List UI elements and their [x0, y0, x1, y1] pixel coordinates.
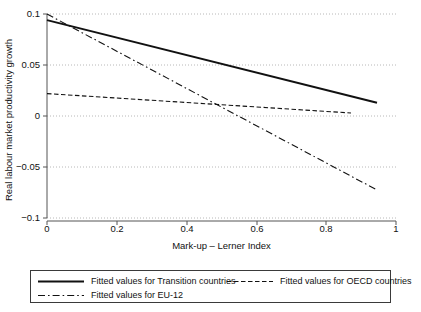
legend-item-oecd: Fitted values for OECD countries [227, 274, 412, 288]
x-tick-label-0.2: 0.2 [97, 224, 137, 234]
legend-sample-solid [38, 276, 84, 287]
y-axis [43, 14, 47, 218]
plot-area [0, 0, 421, 312]
x-tick-label-0.6: 0.6 [237, 224, 277, 234]
legend-sample-dashed [227, 276, 273, 287]
legend-label-transition: Fitted values for Transition countries [91, 276, 236, 287]
legend-label-eu12: Fitted values for EU-12 [91, 290, 183, 301]
series-line-eu12 [47, 14, 377, 190]
legend-sample-dash-dot [38, 290, 84, 301]
x-axis-title: Mark-up – Lerner Index [47, 240, 396, 251]
legend-item-eu12: Fitted values for EU-12 [38, 288, 183, 302]
x-tick-label-0.8: 0.8 [306, 224, 346, 234]
series-line-oecd [47, 94, 351, 113]
x-tick-label-0.4: 0.4 [167, 224, 207, 234]
chart-figure: 0.1 0.05 0 −0.05 −0.1 0 0.2 0.4 0.6 0.8 … [0, 0, 421, 312]
chart-legend: Fitted values for Transition countries F… [30, 270, 391, 303]
legend-label-oecd: Fitted values for OECD countries [280, 276, 412, 287]
x-tick-label-1: 1 [376, 224, 416, 234]
gridlines [47, 14, 396, 218]
series-line-transition [47, 20, 377, 103]
x-tick-label-0: 0 [27, 224, 67, 234]
legend-item-transition: Fitted values for Transition countries [38, 274, 236, 288]
y-axis-title: Real labour market productivity growth [2, 5, 16, 235]
